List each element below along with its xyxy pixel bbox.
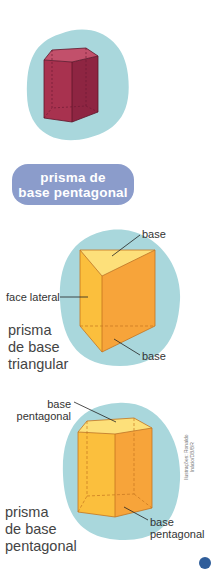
caption-triangular-prism: prisma de base triangular: [8, 322, 68, 373]
label-base-bottom: base: [142, 350, 166, 362]
label-face-lateral: face lateral: [6, 291, 60, 303]
label-base-pentagonal-top: base pentagonal: [16, 398, 71, 422]
page-corner-marker: [199, 557, 211, 569]
caption-pentagonal-prism: prisma de base pentagonal: [5, 504, 77, 555]
label-pill-line1: prisma de: [12, 170, 134, 185]
label-pill: prisma de base pentagonal: [12, 164, 134, 205]
pentagonal-prism-red-icon: [44, 48, 98, 122]
label-base-pentagonal-bottom: base pentagonal: [150, 516, 204, 540]
label-pill-line2: base pentagonal: [12, 185, 134, 200]
pentagonal-prism-orange-icon: [78, 418, 152, 517]
illustration-credit: Ilustrações: Ronaldo Inácio/DB/BR: [183, 434, 195, 480]
label-base-top: base: [142, 228, 166, 240]
